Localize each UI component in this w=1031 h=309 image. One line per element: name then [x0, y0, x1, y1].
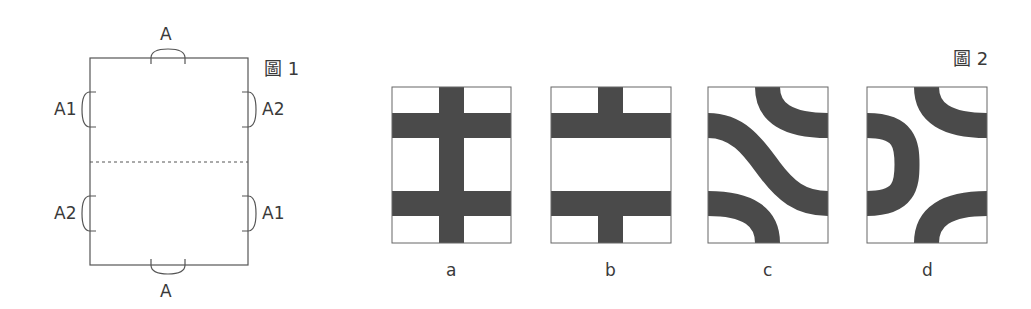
bracket-right-upper [242, 92, 256, 127]
bracket-bottom [151, 259, 185, 274]
bracket-left-lower [82, 196, 96, 231]
figure1-caption: 圖 1 [264, 60, 299, 78]
panel-d-label: d [922, 262, 933, 279]
label-left-upper: A1 [54, 101, 76, 118]
panel-d-tile [867, 87, 987, 243]
panel-b-tile [551, 87, 671, 243]
diagram-canvas [0, 0, 1031, 309]
panel-c-tile [708, 87, 828, 243]
label-left-lower: A2 [54, 205, 76, 222]
label-top-a: A [160, 26, 172, 43]
bracket-left-upper [82, 92, 96, 127]
bracket-right-lower [242, 196, 256, 231]
figure1-outline [82, 49, 256, 274]
panel-c-label: c [763, 262, 772, 279]
figure2-caption: 圖 2 [953, 50, 988, 68]
label-right-lower: A1 [262, 205, 284, 222]
panel-a-label: a [446, 262, 456, 279]
bracket-top [151, 49, 185, 64]
label-right-upper: A2 [262, 101, 284, 118]
panel-a-tile [392, 87, 511, 243]
label-bottom-a: A [160, 283, 172, 300]
panel-b-label: b [605, 262, 616, 279]
